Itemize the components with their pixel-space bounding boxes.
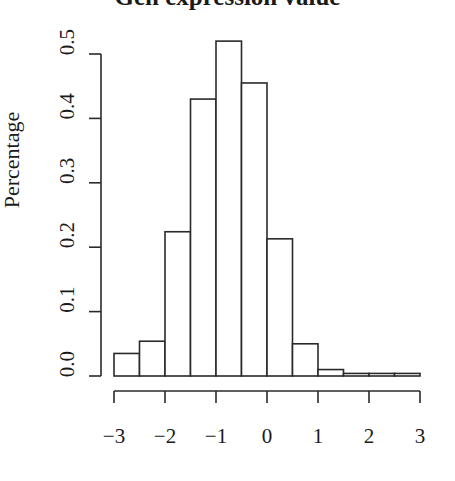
histogram-bar <box>369 373 395 376</box>
y-tick-label: 0.3 <box>55 158 79 184</box>
histogram-bar <box>267 239 293 376</box>
histogram-chart: Gen expression value Percentage 0.00.10.… <box>0 0 455 481</box>
histogram-bar <box>165 232 191 376</box>
x-tick-label: 0 <box>262 424 273 448</box>
histogram-bar <box>318 370 344 376</box>
x-tick-label: −1 <box>205 424 227 448</box>
x-axis: −3−2−10123 <box>103 391 425 448</box>
x-tick-label: −2 <box>154 424 176 448</box>
y-axis: 0.00.10.20.30.40.5 <box>55 29 101 377</box>
x-tick-label: 1 <box>313 424 324 448</box>
x-tick-label: 2 <box>364 424 375 448</box>
histogram-bar <box>344 373 370 376</box>
histogram-bar <box>216 41 242 376</box>
histogram-bar <box>140 341 166 376</box>
y-tick-label: 0.4 <box>55 93 79 120</box>
histogram-bar <box>191 99 217 376</box>
y-axis-label: Percentage <box>0 112 25 209</box>
histogram-bar <box>242 83 268 376</box>
histogram-bar <box>114 353 140 376</box>
y-tick-label: 0.0 <box>55 351 79 377</box>
y-tick-label: 0.2 <box>55 222 79 248</box>
histogram-bars <box>114 41 420 376</box>
plot-area: 0.00.10.20.30.40.5 −3−2−10123 <box>0 0 455 481</box>
y-tick-label: 0.1 <box>55 286 79 312</box>
chart-title: Gen expression value <box>0 0 455 11</box>
x-tick-label: 3 <box>415 424 426 448</box>
histogram-bar <box>395 373 421 376</box>
y-tick-label: 0.5 <box>55 29 79 55</box>
x-tick-label: −3 <box>103 424 125 448</box>
histogram-bar <box>293 344 319 376</box>
